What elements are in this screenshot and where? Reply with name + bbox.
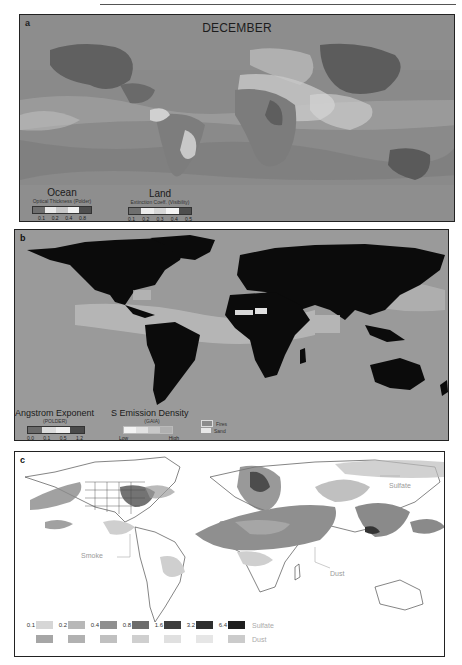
ocean-legend: Ocean Optical Thickness (Polder) 0.1 0.2… — [32, 187, 92, 221]
ocean-tick: 0.1 — [38, 215, 45, 221]
legend-value: 0.1 — [23, 622, 35, 628]
land-swatch-0 — [129, 208, 141, 214]
legend-item-0.1: 0.1 — [23, 621, 55, 629]
land-tick: 0.4 — [171, 216, 178, 222]
panel-label-c: c — [20, 455, 25, 465]
land-tick: 0.3 — [157, 216, 164, 222]
angstrom-swatch-0 — [28, 427, 42, 433]
concentration-legend: 0.1 0.2 0.4 0.8 1.6 3.2 6.4 Sulfate Dust — [23, 618, 274, 646]
land-swatch-1 — [141, 208, 153, 214]
sand-legend-item: Sand — [201, 427, 227, 434]
angstrom-tick: 1.2 — [76, 435, 83, 441]
page-header-rule — [100, 4, 456, 5]
dust-annotation: Dust — [330, 570, 344, 577]
source-type-legend: Fires Sand — [201, 420, 227, 434]
emission-swatch-1 — [136, 427, 148, 433]
legend-value: 3.2 — [183, 622, 195, 628]
emission-swatch-3 — [160, 427, 172, 433]
panel-c-aerosol-model-map: c Sulfate Smoke Dust 0.1 0.2 0.4 0.8 1.6… — [14, 451, 445, 657]
ocean-swatch-0 — [33, 207, 45, 213]
ocean-tick: 0.2 — [52, 215, 59, 221]
dust-item — [183, 635, 215, 643]
sand-label: Sand — [214, 428, 226, 434]
dust-swatch — [164, 635, 181, 643]
legend-value: 6.4 — [215, 622, 227, 628]
dust-item — [151, 635, 183, 643]
emission-color-bar — [123, 426, 173, 434]
sulfate-swatch — [68, 621, 85, 629]
fires-legend-item: Fires — [201, 420, 227, 427]
land-swatch-2 — [154, 208, 166, 214]
fires-swatch — [201, 420, 213, 427]
dust-legend-label: Dust — [252, 636, 266, 643]
sulfate-swatch — [228, 621, 245, 629]
emission-legend-subtitle: (GAIA) — [111, 418, 193, 424]
legend-item-1.6: 1.6 — [151, 621, 183, 629]
land-legend-title: Land — [128, 188, 192, 199]
ocean-legend-subtitle: Optical Thickness (Polder) — [32, 198, 92, 204]
fires-label: Fires — [216, 421, 227, 427]
dust-item — [87, 635, 119, 643]
legend-value: 0.8 — [119, 622, 131, 628]
panel-a-aerosol-optical-thickness-map: a DECEMBER Ocean Optical Thickness (Pold… — [19, 14, 455, 222]
sulfate-annotation: Sulfate — [389, 482, 411, 489]
ocean-tick: 0.8 — [79, 215, 86, 221]
ocean-swatch-1 — [45, 207, 57, 213]
land-color-bar — [128, 207, 192, 215]
land-legend-subtitle: Extinction Coeff. (Visibility) — [128, 199, 192, 205]
land-tick: 0.2 — [142, 216, 149, 222]
ocean-swatch-4 — [79, 207, 91, 213]
dust-swatch — [196, 635, 213, 643]
legend-item-6.4: 6.4 — [215, 621, 247, 629]
angstrom-legend-title: Angstrom Exponent — [15, 408, 95, 418]
dust-swatch — [100, 635, 117, 643]
dust-item — [119, 635, 151, 643]
sulfate-swatch — [132, 621, 149, 629]
angstrom-swatch-3 — [70, 427, 84, 433]
ocean-ticks: 0.1 0.2 0.4 0.8 — [32, 215, 92, 221]
sulfate-swatch — [100, 621, 117, 629]
angstrom-tick: 0.5 — [60, 435, 67, 441]
land-swatch-3 — [166, 208, 178, 214]
smoke-annotation: Smoke — [81, 552, 103, 559]
emission-swatch-0 — [124, 427, 136, 433]
ocean-swatch-3 — [68, 207, 80, 213]
land-legend: Land Extinction Coeff. (Visibility) 0.1 … — [128, 188, 192, 222]
land-tick: 0.1 — [128, 216, 135, 222]
angstrom-tick: 0.0 — [27, 435, 34, 441]
panel-b-angstrom-exponent-map: b Angstrom Exponent (POLDER) 0.0 0.1 0.5… — [14, 229, 449, 441]
legend-item-0.4: 0.4 — [87, 621, 119, 629]
land-tick: 0.5 — [185, 216, 192, 222]
emission-swatch-2 — [148, 427, 160, 433]
legend-value: 0.2 — [55, 622, 67, 628]
panel-a-title: DECEMBER — [20, 21, 454, 35]
emission-legend-title: S Emission Density — [111, 408, 193, 418]
dust-swatch — [68, 635, 85, 643]
legend-item-0.8: 0.8 — [119, 621, 151, 629]
land-ticks: 0.1 0.2 0.3 0.4 0.5 — [128, 216, 192, 222]
legend-value: 1.6 — [151, 622, 163, 628]
angstrom-legend: Angstrom Exponent (POLDER) 0.0 0.1 0.5 1… — [15, 408, 95, 441]
angstrom-color-bar — [27, 426, 85, 434]
emission-tick-high: High — [169, 435, 179, 441]
dust-legend-row: Dust — [23, 632, 274, 646]
dust-item — [23, 635, 55, 643]
dust-item — [215, 635, 247, 643]
angstrom-legend-subtitle: (POLDER) — [15, 418, 95, 424]
angstrom-swatch-2 — [56, 427, 70, 433]
dust-swatch — [132, 635, 149, 643]
dust-swatch — [228, 635, 245, 643]
ocean-swatch-2 — [56, 207, 68, 213]
sulfate-legend-row: 0.1 0.2 0.4 0.8 1.6 3.2 6.4 Sulfate — [23, 618, 274, 632]
dust-swatch — [36, 635, 53, 643]
dust-item — [55, 635, 87, 643]
angstrom-ticks: 0.0 0.1 0.5 1.2 — [27, 435, 83, 441]
legend-value: 0.4 — [87, 622, 99, 628]
land-swatch-4 — [179, 208, 191, 214]
sand-swatch — [201, 428, 211, 433]
sulfate-swatch — [164, 621, 181, 629]
ocean-legend-title: Ocean — [32, 187, 92, 198]
legend-item-0.2: 0.2 — [55, 621, 87, 629]
emission-tick-low: Low — [119, 435, 128, 441]
legend-item-3.2: 3.2 — [183, 621, 215, 629]
